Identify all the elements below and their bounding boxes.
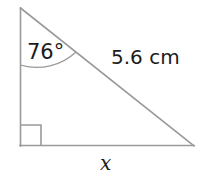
geometry-figure: 76° 5.6 cm x — [0, 0, 201, 181]
hypotenuse-length-label: 5.6 cm — [111, 47, 180, 67]
right-angle-marker-icon — [21, 125, 42, 146]
angle-label: 76° — [27, 42, 64, 63]
base-length-label: x — [100, 153, 111, 173]
triangle-hypotenuse — [21, 8, 195, 146]
